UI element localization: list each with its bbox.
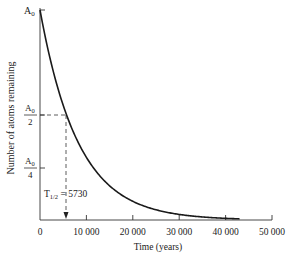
y-tick-label-a0-quarter: A0 4 [24,156,37,180]
svg-text:2: 2 [28,117,33,127]
y-tick-label-a0: A0 [24,5,35,18]
x-ticks: 010 00020 00030 00040 00050 000 [38,215,286,237]
x-tick-label: 0 [38,227,43,237]
svg-text:4: 4 [28,170,33,180]
half-life-annotation: T1/2 = 5730 [44,189,87,200]
y-tick-label-a0-half: A0 2 [24,103,37,127]
x-tick-label: 10 000 [73,227,99,237]
x-tick-label: 20 000 [120,227,146,237]
y-axis-label: Number of atoms remaining [5,61,16,174]
x-axis-label: Time (years) [134,242,182,253]
x-tick-label: 30 000 [166,227,192,237]
decay-curve [40,10,240,219]
arrow-down-icon [64,212,69,219]
svg-text:A0: A0 [25,103,35,114]
svg-text:A0: A0 [24,5,35,18]
x-tick-label: 50 000 [259,227,285,237]
decay-chart: 010 00020 00030 00040 00050 000 A0 A0 2 … [0,0,298,264]
x-tick-label: 40 000 [213,227,239,237]
svg-text:A0: A0 [25,156,35,167]
